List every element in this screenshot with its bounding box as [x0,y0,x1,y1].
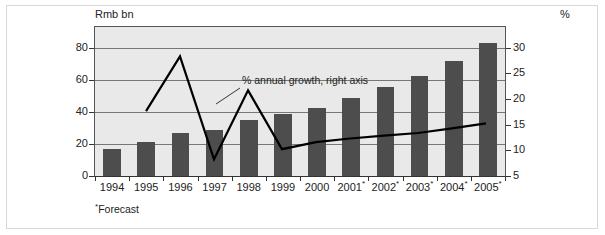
left-tick-label-20: 20 [60,138,88,149]
bar-1996 [172,133,190,176]
x-tick-year: 2001 [337,181,361,193]
plot-area [94,26,506,177]
bar-2002 [377,87,395,176]
x-tick-year: 2002 [372,181,396,193]
left-tick-mark-20 [89,144,94,145]
x-tick-year: 2004 [440,181,464,193]
right-axis-title: % [560,8,570,20]
bar-1999 [274,114,292,176]
left-tick-label-0: 0 [60,170,88,181]
x-tick-label-2005: 2005* [468,181,508,193]
bar-1997 [206,130,224,176]
left-tick-mark-0 [89,176,94,177]
bar-2001 [342,98,360,176]
bar-1995 [137,142,155,176]
x-tick-year: 1998 [237,181,261,193]
bar-2000 [308,108,326,176]
x-tick-year: 2000 [305,181,329,193]
x-tick-marker: * [499,179,502,188]
x-tick-year: 2003 [406,181,430,193]
left-tick-label-80: 80 [60,42,88,53]
bar-1998 [240,120,258,176]
footnote-text: Forecast [98,203,139,215]
annotation-label: % annual growth, right axis [242,74,368,86]
x-tick-year: 1999 [271,181,295,193]
x-tick-year: 1995 [134,181,158,193]
right-tick-mark-10 [506,150,511,151]
bar-1994 [103,149,121,176]
right-tick-mark-30 [506,48,511,49]
left-tick-label-40: 40 [60,106,88,117]
right-tick-label-30: 30 [513,42,537,53]
right-tick-label-5: 5 [513,170,537,181]
x-tick-year: 1996 [168,181,192,193]
x-tick-mark-2005 [505,177,506,181]
footnote: *Forecast [95,203,139,215]
x-tick-year: 1997 [202,181,226,193]
right-tick-mark-20 [506,99,511,100]
bar-2003 [411,76,429,176]
chart-figure: Rmb bn % 020406080 51015202530 199419951… [0,0,605,235]
right-tick-label-10: 10 [513,144,537,155]
x-tick-mark-origin [95,177,96,181]
right-tick-label-15: 15 [513,119,537,130]
right-tick-mark-15 [506,125,511,126]
right-tick-mark-25 [506,73,511,74]
x-tick-year: 2005 [474,181,498,193]
left-tick-label-60: 60 [60,74,88,85]
x-tick-year: 1994 [100,181,124,193]
left-tick-mark-60 [89,80,94,81]
bar-2005 [479,43,497,176]
left-tick-mark-80 [89,48,94,49]
right-tick-label-25: 25 [513,67,537,78]
right-tick-mark-5 [506,176,511,177]
right-tick-label-20: 20 [513,93,537,104]
bar-2004 [445,61,463,176]
left-axis-title: Rmb bn [95,8,134,20]
left-tick-mark-40 [89,112,94,113]
bar-series [95,27,505,176]
